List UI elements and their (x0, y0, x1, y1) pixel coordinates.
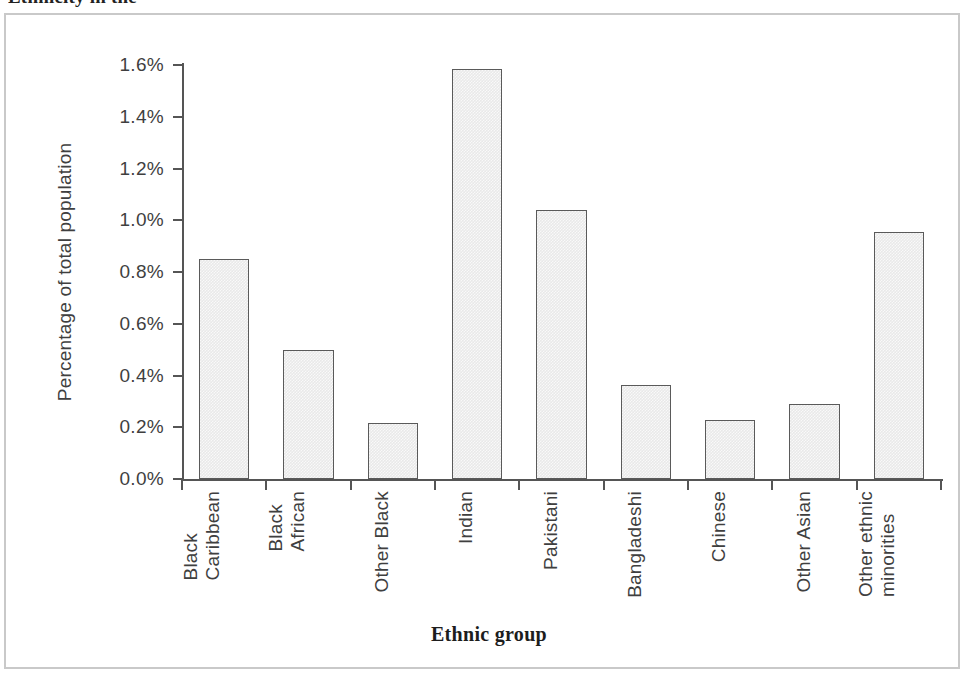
x-axis-tick (350, 479, 352, 490)
x-axis-tick (518, 479, 520, 490)
x-axis-category-label-line: Indian (455, 491, 477, 544)
y-axis-tick (173, 271, 182, 273)
y-axis-tick-label: 0.4% (119, 365, 164, 387)
y-axis-tick (173, 426, 182, 428)
x-axis-tick (434, 479, 436, 490)
x-axis-tick (856, 479, 858, 490)
x-axis-tick (181, 479, 183, 490)
x-axis-title: Ethnic group (6, 623, 966, 646)
x-axis-tick (603, 479, 605, 490)
y-axis-tick (173, 323, 182, 325)
y-axis-tick (173, 116, 182, 118)
y-axis-title: Percentage of total population (54, 143, 76, 401)
x-axis-category-label-line: Black (265, 491, 287, 552)
y-axis-tick-label: 1.2% (119, 158, 164, 180)
bar[interactable] (789, 404, 840, 479)
x-axis-category-label-line: Other Asian (793, 491, 815, 592)
y-axis-tick (173, 168, 182, 170)
bar[interactable] (536, 210, 587, 479)
y-axis-tick (173, 64, 182, 66)
plot-area (182, 65, 941, 479)
y-axis-tick-label: 0.6% (119, 313, 164, 335)
x-axis-category-label-line: Caribbean (202, 491, 224, 580)
x-axis-tick (265, 479, 267, 490)
x-axis-category-label-line: Chinese (708, 491, 730, 562)
x-axis-tick (687, 479, 689, 490)
x-axis-category-label-line: Black (180, 491, 202, 580)
y-axis-tick (173, 219, 182, 221)
clipped-heading-above-figure: Ethnicity in the (8, 0, 137, 8)
y-axis-tick (173, 375, 182, 377)
y-axis-tick-label: 0.2% (119, 416, 164, 438)
bar[interactable] (199, 259, 250, 479)
x-axis-line (182, 479, 943, 481)
x-axis-category-label-line: Bangladeshi (624, 491, 646, 598)
x-axis-category-label-line: minorities (877, 491, 899, 597)
y-axis-tick-label: 1.0% (119, 209, 164, 231)
bar[interactable] (874, 232, 925, 479)
y-axis-tick-label: 0.8% (119, 261, 164, 283)
figure-frame: 0.0%0.2%0.4%0.6%0.8%1.0%1.2%1.4%1.6% Bla… (4, 13, 960, 669)
x-axis-tick (771, 479, 773, 490)
y-axis-tick-label: 1.6% (119, 54, 164, 76)
y-axis-tick-label: 1.4% (119, 106, 164, 128)
bar[interactable] (283, 350, 334, 479)
bar[interactable] (452, 69, 503, 479)
x-axis-category-label-line: Pakistani (540, 491, 562, 570)
y-axis-tick-label: 0.0% (119, 468, 164, 490)
x-axis-category-label-line: Other ethnic (855, 491, 877, 597)
x-axis-category-label-line: African (287, 491, 309, 552)
x-axis-tick (940, 479, 942, 490)
bar[interactable] (705, 420, 756, 480)
bar[interactable] (621, 385, 672, 479)
x-axis-category-label-line: Other Black (371, 491, 393, 592)
bar[interactable] (368, 423, 419, 479)
